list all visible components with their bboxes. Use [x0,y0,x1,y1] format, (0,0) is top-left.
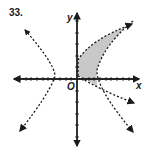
left-branch-curve [20,30,55,131]
graph [0,0,151,157]
